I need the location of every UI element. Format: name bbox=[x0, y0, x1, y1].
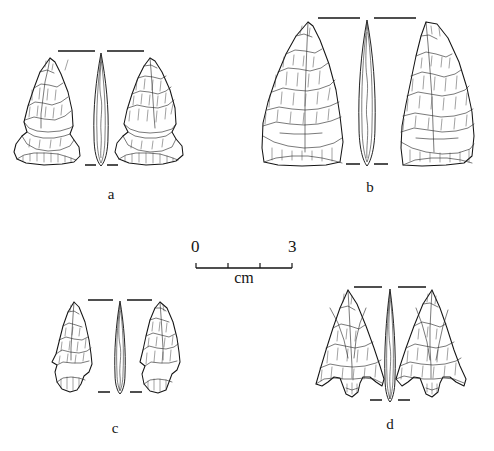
specimen-b bbox=[250, 8, 484, 178]
specimen-b-profile bbox=[359, 20, 375, 166]
specimen-d bbox=[310, 278, 490, 410]
specimen-d-reverse bbox=[396, 290, 466, 397]
specimen-c-figure bbox=[48, 292, 198, 402]
specimen-b-obverse bbox=[262, 22, 343, 166]
specimen-d-obverse bbox=[316, 290, 384, 397]
specimen-b-figure bbox=[250, 8, 484, 178]
specimen-b-reverse bbox=[401, 22, 474, 166]
specimen-a-profile bbox=[94, 53, 108, 166]
specimen-a bbox=[10, 40, 192, 180]
specimen-c-reverse bbox=[140, 302, 180, 393]
specimen-d-label: d bbox=[375, 417, 405, 432]
specimen-a-reverse bbox=[115, 58, 183, 165]
specimen-c-label: c bbox=[100, 421, 130, 436]
specimen-b-label: b bbox=[355, 180, 385, 195]
specimen-c bbox=[48, 292, 198, 402]
specimen-c-obverse bbox=[52, 302, 92, 392]
scale-end-label: 3 bbox=[288, 238, 297, 255]
specimen-d-figure bbox=[310, 278, 490, 410]
scale-bar: 0 3 cm bbox=[188, 234, 306, 286]
scale-unit-label: cm bbox=[214, 270, 274, 286]
illustration-plate: a bbox=[0, 0, 494, 451]
specimen-a-obverse bbox=[14, 58, 80, 165]
specimen-a-label: a bbox=[96, 187, 126, 202]
specimen-c-profile bbox=[115, 301, 126, 394]
specimen-d-profile bbox=[385, 289, 396, 402]
specimen-a-figure bbox=[10, 40, 192, 180]
scale-start-label: 0 bbox=[191, 238, 200, 255]
